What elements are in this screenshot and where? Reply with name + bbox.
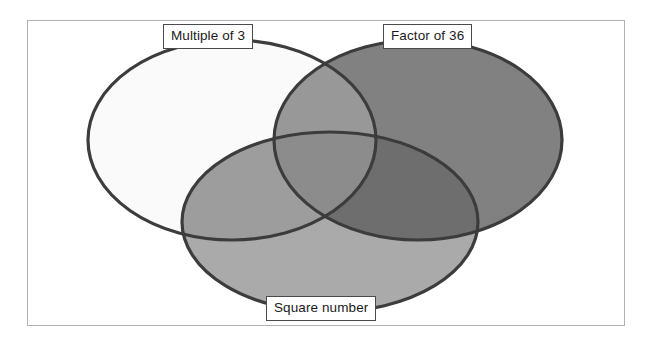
venn-diagram-svg — [0, 0, 650, 347]
set-label-square-number: Square number — [266, 296, 376, 321]
venn-diagram-page: Multiple of 3 Factor of 36 Square number — [0, 0, 650, 347]
set-label-multiple-of-3: Multiple of 3 — [163, 24, 253, 49]
venn-region-fills — [88, 40, 562, 312]
set-label-factor-of-36: Factor of 36 — [383, 24, 472, 49]
